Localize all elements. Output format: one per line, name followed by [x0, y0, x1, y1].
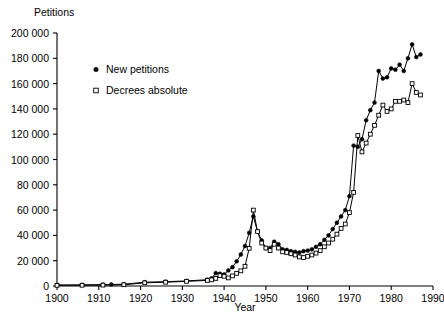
data-point-marker [368, 108, 372, 112]
data-point-marker [394, 68, 398, 72]
data-point-marker [381, 103, 385, 107]
data-point-marker [377, 113, 381, 117]
data-point-marker [310, 247, 314, 251]
data-point-marker [314, 245, 318, 249]
y-axis-ticks: 020 00040 00060 00080 000100 000120 0001… [11, 27, 57, 292]
data-point-marker [377, 69, 381, 73]
data-point-marker [419, 53, 423, 57]
data-point-marker [398, 63, 402, 67]
data-point-marker [231, 274, 235, 278]
data-point-marker [364, 118, 368, 122]
data-point-marker [164, 280, 168, 284]
data-point-marker [389, 107, 393, 111]
y-tick-label: 200 000 [11, 27, 49, 39]
y-tick-label: 20 000 [17, 255, 49, 267]
data-point-marker [356, 134, 360, 138]
data-point-marker [368, 132, 372, 136]
x-tick-label: 1980 [380, 292, 404, 304]
data-point-marker [214, 277, 218, 281]
legend-marker-decrees-absolute [94, 88, 99, 93]
data-point-marker [235, 271, 239, 275]
data-point-marker [277, 242, 281, 246]
data-point-marker [406, 56, 410, 60]
data-point-marker [381, 77, 385, 81]
data-point-marker [389, 67, 393, 71]
data-point-marker [281, 250, 285, 254]
data-point-marker [348, 211, 352, 215]
x-tick-label: 1930 [171, 292, 195, 304]
x-axis-title: Year [234, 301, 256, 313]
data-point-marker [352, 190, 356, 194]
data-point-marker [410, 82, 414, 86]
data-point-marker [297, 251, 301, 255]
data-point-marker [302, 256, 306, 260]
data-point-marker [206, 279, 210, 283]
data-point-marker [322, 245, 326, 249]
data-point-marker [410, 42, 414, 46]
data-point-marker [226, 276, 230, 280]
data-point-marker [80, 283, 84, 287]
data-point-marker [285, 251, 289, 255]
data-point-marker [256, 230, 260, 234]
data-point-marker [260, 241, 264, 245]
legend-label: Decrees absolute [106, 84, 188, 96]
data-point-marker [268, 249, 272, 253]
legend-marker-new-petitions [94, 67, 98, 71]
x-tick-label: 1920 [129, 292, 153, 304]
data-point-marker [385, 110, 389, 114]
data-point-marker [414, 55, 418, 59]
data-point-marker [218, 274, 222, 278]
data-point-marker [352, 144, 356, 148]
y-tick-label: 100 000 [11, 154, 49, 166]
data-point-marker [331, 237, 335, 241]
data-point-marker [402, 69, 406, 73]
x-tick-label: 1910 [87, 292, 111, 304]
chart-figure: Petitions 020 00040 00060 00080 000100 0… [0, 0, 444, 320]
data-point-marker [335, 221, 339, 225]
data-point-marker [185, 279, 189, 283]
data-series [55, 42, 422, 286]
x-tick-label: 1960 [296, 292, 320, 304]
data-point-marker [55, 283, 59, 287]
data-point-marker [364, 141, 368, 145]
data-point-marker [339, 227, 343, 231]
legend-label: New petitions [106, 63, 169, 75]
series-layer [55, 42, 422, 287]
y-tick-label: 80 000 [17, 179, 49, 191]
data-point-marker [310, 253, 314, 257]
data-point-marker [335, 232, 339, 236]
data-point-marker [343, 222, 347, 226]
y-axis-title: Petitions [34, 6, 74, 18]
data-point-marker [327, 241, 331, 245]
data-point-marker [339, 215, 343, 219]
data-point-marker [414, 91, 418, 95]
data-point-marker [402, 98, 406, 102]
data-point-marker [343, 208, 347, 212]
data-point-marker [306, 249, 310, 253]
data-point-marker [373, 101, 377, 105]
x-tick-label: 1900 [45, 292, 69, 304]
y-tick-label: 160 000 [11, 78, 49, 90]
data-point-marker [272, 242, 276, 246]
data-series [55, 82, 422, 288]
data-point-marker [235, 259, 239, 263]
x-tick-label: 1970 [338, 292, 362, 304]
data-point-marker [331, 227, 335, 231]
data-point-marker [247, 246, 251, 250]
data-point-marker [239, 253, 243, 257]
data-point-marker [264, 246, 268, 250]
data-point-marker [318, 242, 322, 246]
data-point-marker [348, 194, 352, 198]
y-tick-label: 0 [43, 280, 49, 292]
data-point-marker [231, 265, 235, 269]
data-point-marker [385, 75, 389, 79]
data-point-marker [226, 269, 230, 273]
data-point-marker [302, 249, 306, 253]
y-tick-label: 40 000 [17, 229, 49, 241]
y-tick-label: 120 000 [11, 128, 49, 140]
data-point-marker [406, 101, 410, 105]
data-point-marker [327, 234, 331, 238]
data-point-marker [243, 244, 247, 248]
y-tick-label: 60 000 [17, 204, 49, 216]
data-point-marker [122, 283, 126, 287]
